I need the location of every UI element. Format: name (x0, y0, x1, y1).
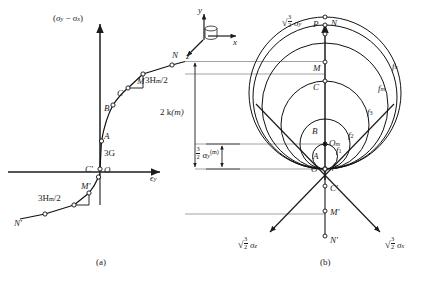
panel-b-surface-label-f0: f0 (332, 162, 338, 171)
panel-a-y-axis-label: (σy − σx) (53, 14, 83, 23)
panel-b-caption: (b) (320, 258, 331, 267)
panel-b-surface-label-f1: f1 (336, 146, 342, 155)
panel-b-point-N: N (331, 19, 337, 28)
panel-a-point-N-prime: N′ (14, 219, 22, 228)
inset-axis-label-x: x (233, 38, 237, 47)
panel-a-x-axis-label: ϵy (150, 174, 156, 183)
panel-b-center-marker (323, 142, 327, 146)
panel-b-point-O: O (311, 165, 318, 174)
panel-a-point-M-prime: M′ (81, 182, 90, 191)
inset-3d-axes (187, 14, 236, 56)
panel-a-slope-upper-label: 3Hm/2 (145, 76, 168, 85)
panel-b-point-N-prime: N′ (330, 236, 338, 245)
figure-root: (σy − σx) ϵy N M C B A O C′ M′ N′ 3Hm/2 … (0, 0, 443, 289)
panel-a-point-M: M (137, 77, 145, 86)
panel-a-initial-slope-label: 3G (104, 149, 115, 158)
panel-b-axis-label-sigma-y: √32 σy (282, 14, 301, 28)
panel-a-point-O: O (104, 166, 111, 175)
panel-a-axes (8, 24, 160, 205)
panel-a-caption: (a) (96, 258, 106, 267)
panel-b-point-P: P (313, 20, 319, 29)
panel-b-axes (256, 24, 394, 236)
panel-b-point-C: C (313, 83, 319, 92)
inset-axis-label-y: y (198, 6, 202, 15)
panel-b-point-A: A (313, 152, 319, 161)
panel-b-point-M: M (313, 64, 321, 73)
dimension-2k-label: 2 k(m) (160, 108, 184, 117)
panel-a-slope-lower-label: 3Hm/2 (38, 194, 61, 203)
tie-lines (185, 62, 325, 215)
panel-a-point-B: B (104, 104, 110, 113)
panel-b-surface-label-fm: fm (378, 84, 385, 93)
panel-a-point-N: N (172, 51, 178, 60)
inset-axis-label-z: z (186, 52, 190, 61)
panel-b-point-B: B (312, 127, 318, 136)
figure-vector-layer (0, 0, 443, 289)
panel-a-point-A: A (104, 132, 110, 141)
panel-b-surface-label-f2: f2 (348, 131, 354, 140)
panel-b-point-C-prime: C′ (330, 184, 338, 193)
panel-b-surface-label-fn: fn (392, 62, 398, 71)
panel-a-point-C-prime: C′ (85, 165, 93, 174)
dimension-alpha-label: 32 αy(m) (196, 146, 219, 160)
panel-b-axis-label-sigma-z: √32 σz (238, 236, 257, 250)
panel-b-surface-label-f3: f3 (367, 108, 373, 117)
panel-b-axis-label-sigma-x: √32 σx (385, 236, 404, 250)
panel-b-point-M-prime: M′ (330, 208, 339, 217)
panel-a-point-C: C (117, 89, 123, 98)
